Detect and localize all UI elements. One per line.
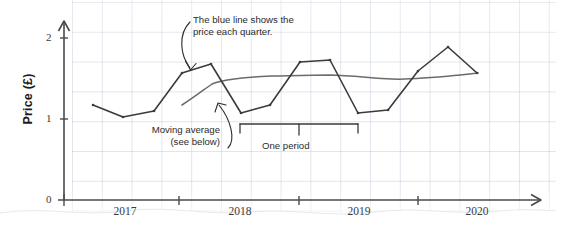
one-period-bracket <box>240 124 358 135</box>
y-tick-label-2: 2 <box>46 31 52 43</box>
x-tick-label-2019: 2019 <box>334 205 384 217</box>
y-axis-title: Price (£) <box>21 64 35 134</box>
x-tick-label-2020: 2020 <box>452 205 502 217</box>
y-tick-label-0: 0 <box>46 193 52 205</box>
line-chart-canvas <box>0 0 588 232</box>
one-period-label: One period <box>262 140 309 152</box>
x-tick-label-2017: 2017 <box>100 205 150 217</box>
chart-screenshot: 2 1 0 Price (£) 2017 2018 2019 2020 The … <box>0 0 588 232</box>
price-quarterly-line <box>93 47 477 117</box>
blue-line-callout-text: The blue line shows the price each quart… <box>193 14 294 38</box>
y-tick-label-1: 1 <box>46 112 52 124</box>
right-margin-mask <box>556 0 588 213</box>
moving-average-callout-text: Moving average (see below) <box>134 124 220 148</box>
y-axis <box>59 21 70 200</box>
price-quarterly-markers <box>92 46 479 119</box>
x-tick-label-2018: 2018 <box>215 205 265 217</box>
